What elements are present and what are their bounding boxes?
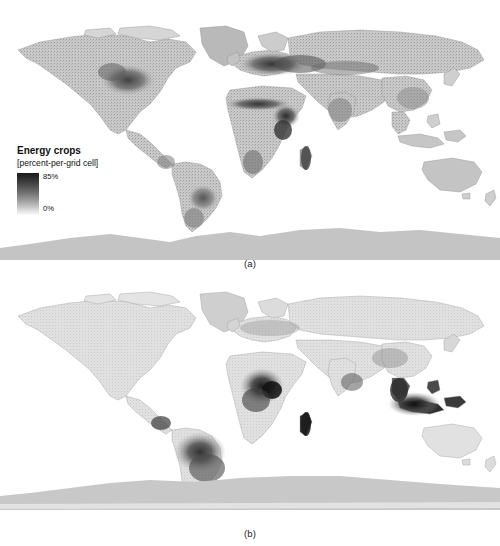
legend-a-min-label: 0% [43, 204, 54, 213]
map-b-svg [0, 282, 500, 522]
world-map-energy-crops [0, 12, 500, 264]
panel-a-caption: (a) [0, 258, 500, 269]
legend-a-title: Energy crops [17, 145, 98, 157]
world-map-yield [0, 282, 500, 522]
gradient-bar-icon [17, 173, 39, 215]
legend-a-colorbar: 85% 0% [17, 172, 89, 218]
legend-a-units: [percent-per-grid cell] [17, 158, 98, 169]
panel-a-energy-crops: Energy crops [percent-per-grid cell] 85%… [0, 12, 500, 264]
cropped-text-remnant [0, 0, 500, 9]
panel-b-yield: Yield [gC/m2/yr] 0 - 100101 - 200201 - 3… [0, 282, 500, 522]
legend-a-max-label: 85% [43, 172, 58, 181]
figure-root: Energy crops [percent-per-grid cell] 85%… [0, 0, 500, 546]
panel-b-caption: (b) [0, 528, 500, 539]
map-a-svg [0, 12, 500, 264]
legend-energy-crops: Energy crops [percent-per-grid cell] 85%… [17, 145, 98, 218]
